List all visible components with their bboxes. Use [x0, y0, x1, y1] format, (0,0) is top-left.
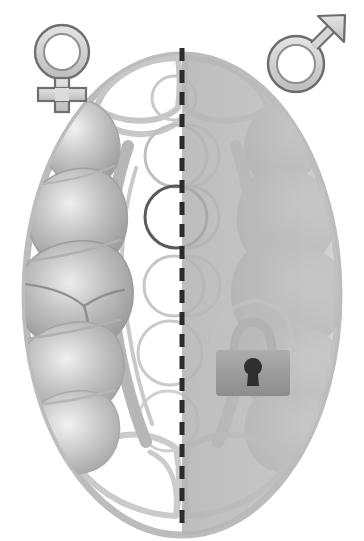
male-half-contents	[157, 40, 346, 540]
gonad-dimorphism-figure	[0, 0, 364, 541]
male-half-veil	[182, 40, 344, 540]
venus-symbol	[35, 25, 89, 112]
mars-symbol	[268, 15, 345, 92]
illustration-canvas: Sex-dimorphic gonad cross-section schema…	[0, 0, 364, 541]
